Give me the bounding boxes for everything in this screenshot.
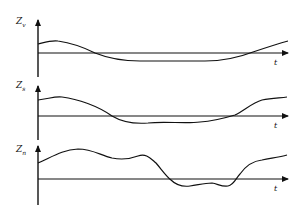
curve-1 — [38, 41, 288, 61]
panel-2 — [38, 86, 288, 140]
y-label-2: Zs — [16, 81, 25, 92]
panel-3 — [38, 146, 288, 205]
y-label-1: Zv — [16, 17, 26, 28]
t-label-2: t — [274, 122, 277, 130]
curve-2 — [38, 97, 287, 123]
waveform-diagram — [0, 0, 305, 211]
panel-1 — [38, 20, 288, 77]
t-label-1: t — [274, 59, 277, 67]
t-label-3: t — [274, 185, 277, 193]
y-label-3: Zn — [16, 145, 26, 156]
curve-3 — [38, 149, 287, 186]
